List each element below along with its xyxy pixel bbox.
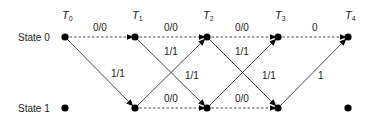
state-label-1: State 1 [18, 103, 50, 114]
edge-label-t0-s0-s1: 1/1 [111, 68, 125, 79]
node-t1-s1 [131, 104, 138, 111]
time-label-t2: T2 [203, 9, 214, 22]
node-t2-s0 [203, 33, 210, 40]
edge-label-t2-s1-s1: 0/0 [235, 93, 249, 104]
time-label-t4: T4 [345, 9, 356, 22]
state-label-0: State 0 [18, 32, 50, 43]
node-t2-s1 [203, 104, 210, 111]
node-t1-s0 [131, 33, 138, 40]
node-t4-s1 [344, 104, 351, 111]
edge-label-t3-s0-s0: 0 [312, 22, 318, 33]
time-label-t3: T3 [275, 9, 286, 22]
time-label-t1: T1 [132, 9, 143, 22]
node-t0-s0 [61, 33, 68, 40]
edge-t3-s1-s0 [278, 39, 346, 108]
node-t3-s0 [274, 33, 281, 40]
time-label-t0: T0 [62, 9, 73, 22]
trellis-diagram: T0 T1 T2 T3 T4 State 0 State 1 0/0 1/1 0… [0, 0, 371, 122]
edge-label-t2-s0-s1: 1/1 [235, 46, 249, 57]
node-t3-s1 [274, 104, 281, 111]
edge-label-t1-s0-s1: 1/1 [164, 46, 178, 57]
edge-label-t0-s0-s0: 0/0 [93, 22, 107, 33]
node-t4-s0 [344, 33, 351, 40]
node-t0-s1 [61, 104, 68, 111]
edge-label-t3-s1-s0: 1 [318, 70, 324, 81]
edge-label-t2-s0-s0: 0/0 [235, 22, 249, 33]
edge-label-t2-s1-s0: 1/1 [262, 70, 276, 81]
edge-label-t1-s1-s1: 0/0 [164, 93, 178, 104]
edge-label-t1-s0-s0: 0/0 [164, 22, 178, 33]
edge-label-t1-s1-s0: 1/1 [185, 70, 199, 81]
